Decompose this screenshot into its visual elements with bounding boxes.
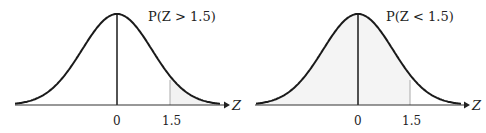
left-axis-arrow-icon <box>224 102 230 109</box>
right-chart: Z 0 1.5 P(Z < 1.5) <box>255 9 482 128</box>
left-probability-label: P(Z > 1.5) <box>148 9 216 24</box>
right-axis-arrow-icon <box>464 102 470 109</box>
normal-distribution-figures: Z 0 1.5 P(Z > 1.5) Z 0 1.5 P(Z < 1.5) <box>0 0 486 133</box>
right-tick-zero: 0 <box>354 114 362 128</box>
right-axis-label: Z <box>471 98 482 113</box>
right-shaded-region <box>256 14 410 105</box>
left-shaded-tail <box>170 76 220 105</box>
left-tick-value: 1.5 <box>162 114 181 128</box>
right-tick-value: 1.5 <box>402 114 421 128</box>
left-chart: Z 0 1.5 P(Z > 1.5) <box>15 9 242 128</box>
left-tick-zero: 0 <box>113 114 121 128</box>
left-axis-label: Z <box>231 98 242 113</box>
right-probability-label: P(Z < 1.5) <box>386 9 454 24</box>
